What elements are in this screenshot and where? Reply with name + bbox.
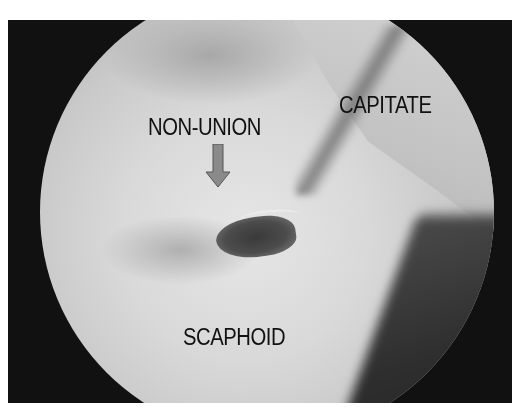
label-scaphoid: SCAPHOID — [183, 324, 285, 351]
joint-shadow — [323, 215, 494, 403]
down-arrow-icon — [205, 144, 231, 188]
arthroscopy-image: NON-UNION CAPITATE SCAPHOID — [8, 20, 512, 403]
label-capitate: CAPITATE — [339, 92, 431, 119]
label-non-union: NON-UNION — [148, 114, 261, 141]
soft-tissue-shade — [100, 20, 320, 105]
